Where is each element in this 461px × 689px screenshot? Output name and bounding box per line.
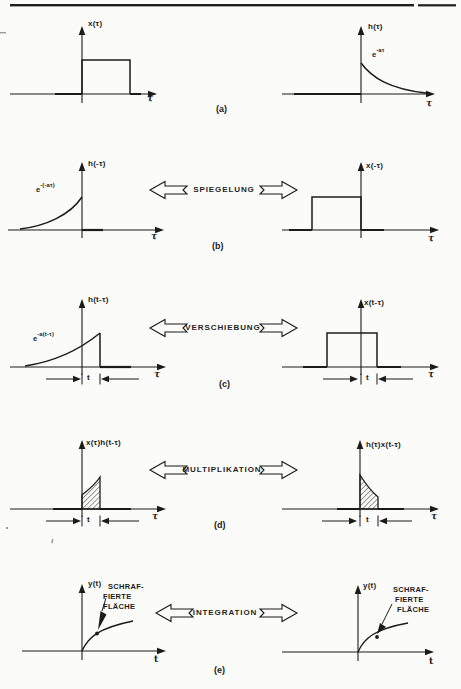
- op-label-spiegelung: SPIEGELUNG: [188, 185, 260, 194]
- xlabel-d-right: τ: [431, 511, 437, 521]
- curve-label-c-left: e-a(t-τ): [33, 332, 54, 343]
- annotation-line: FIERTE: [395, 595, 429, 605]
- plot-b-left: [8, 162, 164, 238]
- xlabel-c-left: τ: [154, 369, 160, 379]
- ylabel-c-right: x(t-τ): [364, 298, 384, 307]
- scan-artifact: [0, 32, 54, 543]
- textbook-figure-page: x(τ) τ h(τ) e-aτ τ (a) h(-τ) e-(-aτ) τ S…: [0, 0, 461, 689]
- ylabel-d-left: x(τ)h(t-τ): [86, 438, 121, 447]
- ylabel-b-right: x(-τ): [366, 161, 383, 170]
- shift-label-c-left: t: [87, 374, 90, 382]
- annotation-line: SCHRAF-: [108, 582, 144, 592]
- curve-label-b-left: e-(-aτ): [36, 183, 55, 194]
- xlabel-b-left: τ: [151, 231, 157, 241]
- shift-label-d-right: t: [366, 516, 369, 524]
- annotation-pointer: [375, 604, 392, 639]
- block-arrow-right: [260, 605, 297, 622]
- ylabel-d-right: h(τ)x(t-τ): [366, 440, 401, 449]
- op-label-verschiebung: VERSCHIEBUNG: [178, 323, 268, 332]
- rect-pulse-mirrored: [312, 197, 361, 230]
- op-label-integration: INTEGRATION: [185, 608, 265, 617]
- ylabel-a-left: x(τ): [88, 19, 102, 28]
- curve-label-a-right: e-aτ: [372, 48, 385, 59]
- shift-label-d-left: t: [87, 516, 90, 524]
- plot-e-left: [22, 584, 166, 660]
- plot-b-right: [282, 162, 439, 238]
- block-arrow-right: [260, 182, 297, 199]
- ylabel-e-left: y(t): [88, 579, 101, 588]
- xlabel-d-left: τ: [152, 511, 158, 521]
- annotation-line: FLÄCHE: [397, 605, 429, 615]
- ylabel-e-right: y(t): [363, 581, 376, 590]
- caption-c: (c): [219, 379, 230, 389]
- shift-dimension: [46, 516, 139, 527]
- top-rule: [10, 4, 456, 6]
- ylabel-c-left: h(t-τ): [88, 295, 109, 304]
- annotation-line: FIERTE: [103, 592, 144, 602]
- xlabel-a-right: τ: [426, 98, 432, 108]
- annotation-e-right: SCHRAF- FIERTE FLÄCHE: [393, 585, 429, 615]
- saturating-curve: [82, 621, 133, 651]
- caption-a: (a): [216, 104, 227, 114]
- hatched-area: [82, 477, 100, 509]
- xlabel-c-right: τ: [428, 369, 434, 379]
- hatched-area: [360, 475, 378, 509]
- plot-d-right: [282, 440, 439, 527]
- plot-a-left: [10, 26, 157, 103]
- annotation-line: SCHRAF-: [393, 585, 429, 595]
- plot-c-right: [282, 299, 439, 385]
- annotation-line: FLÄCHE: [103, 602, 144, 612]
- plot-d-left: [10, 440, 166, 527]
- exp-mirrored-curve: [20, 197, 82, 229]
- shift-label-c-right: t: [366, 374, 369, 382]
- figure-graphics: [0, 0, 461, 689]
- caption-d: (d): [214, 520, 226, 530]
- ylabel-b-left: h(-τ): [88, 159, 106, 168]
- op-label-multiplikation: MULTIPLIKATION: [175, 465, 269, 474]
- shift-dimension: [46, 374, 139, 385]
- xlabel-a-left: τ: [147, 93, 153, 103]
- rect-pulse-shifted: [327, 333, 377, 367]
- ylabel-a-right: h(τ): [368, 22, 383, 31]
- xlabel-e-left: t: [154, 654, 158, 664]
- plot-a-right: [282, 26, 435, 103]
- rect-pulse: [82, 60, 130, 94]
- xlabel-b-right: τ: [428, 233, 434, 243]
- annotation-e-left: SCHRAF- FIERTE FLÄCHE: [103, 582, 144, 612]
- xlabel-e-right: t: [429, 656, 433, 666]
- caption-b: (b): [212, 241, 224, 251]
- block-arrow-left: [150, 182, 187, 199]
- caption-e: (e): [214, 665, 225, 675]
- exp-decay-curve: [361, 63, 426, 93]
